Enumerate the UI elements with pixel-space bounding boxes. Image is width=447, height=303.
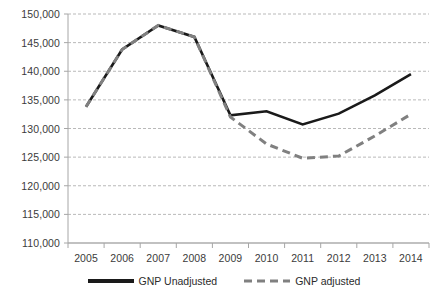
y-axis-tick-label: 130,000 xyxy=(0,123,60,135)
series-line xyxy=(86,25,411,158)
legend-line-swatch-icon xyxy=(243,276,291,286)
x-axis-tick-label: 2009 xyxy=(219,252,243,264)
chart-legend: GNP UnadjustedGNP adjusted xyxy=(0,275,447,287)
y-axis-tick-label: 145,000 xyxy=(0,37,60,49)
y-axis-tick-label: 140,000 xyxy=(0,65,60,77)
legend-item[interactable]: GNP Unadjusted xyxy=(87,275,218,287)
y-axis-tick-label: 110,000 xyxy=(0,237,60,249)
legend-label: GNP Unadjusted xyxy=(139,275,218,287)
y-axis-tick-label: 120,000 xyxy=(0,180,60,192)
x-axis-tick-label: 2005 xyxy=(74,252,98,264)
x-axis-tick-label: 2011 xyxy=(291,252,314,264)
x-axis-tick-label: 2010 xyxy=(255,252,279,264)
legend-label: GNP adjusted xyxy=(295,275,360,287)
series-lines xyxy=(86,25,411,158)
x-axis-tick-label: 2012 xyxy=(327,252,351,264)
chart-canvas xyxy=(0,0,447,255)
legend-item[interactable]: GNP adjusted xyxy=(243,275,360,287)
x-axis-tick-label: 2013 xyxy=(363,252,387,264)
x-axis-tick-label: 2014 xyxy=(399,252,423,264)
legend-line-swatch-icon xyxy=(87,276,135,286)
chart-container: 110,000115,000120,000125,000130,000135,0… xyxy=(0,0,447,303)
x-axis-tick-label: 2007 xyxy=(146,252,170,264)
plot-area: 110,000115,000120,000125,000130,000135,0… xyxy=(0,0,447,255)
y-axis-tick-label: 125,000 xyxy=(0,151,60,163)
y-axis-tick-label: 135,000 xyxy=(0,94,60,106)
y-axis-tick-label: 150,000 xyxy=(0,8,60,20)
x-axis-tick-label: 2006 xyxy=(110,252,134,264)
x-axis-tick-label: 2008 xyxy=(182,252,206,264)
x-axis-ticks xyxy=(64,14,429,248)
y-axis-tick-label: 115,000 xyxy=(0,208,60,220)
